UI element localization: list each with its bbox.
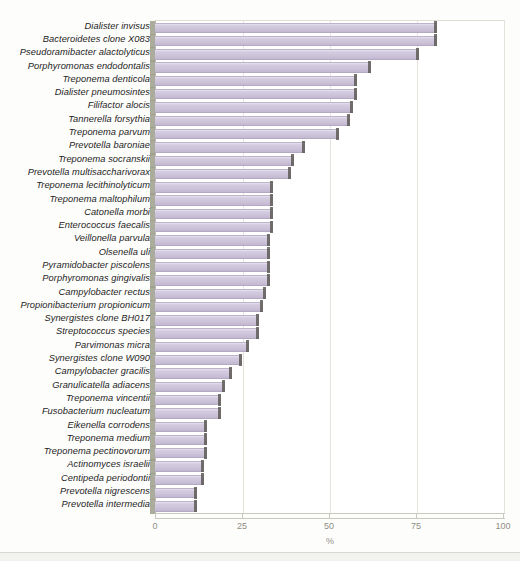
bar: [155, 156, 294, 166]
bar-end-cap: [270, 207, 273, 219]
y-axis-label: Prevotella intermedia: [0, 499, 150, 510]
bar: [155, 222, 273, 232]
bar: [155, 249, 270, 259]
bar-end-cap: [434, 34, 437, 46]
bar: [155, 89, 357, 99]
x-axis-title: %: [155, 536, 505, 546]
y-axis-label: Catonella morbi: [0, 207, 150, 218]
y-axis-label: Treponema socranskii: [0, 154, 150, 165]
bar-end-cap: [336, 128, 339, 140]
bar: [155, 302, 263, 312]
bar: [155, 235, 270, 245]
bar: [155, 342, 249, 352]
bar: [155, 475, 204, 485]
y-axis-label: Enterococcus faecalis: [0, 220, 150, 231]
bar-end-cap: [368, 61, 371, 73]
figure-canvas: 0255075100Dialister invisusBacteroidetes…: [0, 0, 520, 561]
bar: [155, 23, 437, 33]
bar: [155, 328, 259, 338]
y-axis-label: Olsenella uli: [0, 247, 150, 258]
bar: [155, 368, 232, 378]
bar: [155, 182, 273, 192]
bar-end-cap: [204, 420, 207, 432]
bar: [155, 116, 350, 126]
y-axis-label: Pyramidobacter piscolens: [0, 260, 150, 271]
y-axis-label: Streptococcus species: [0, 326, 150, 337]
bar-end-cap: [291, 154, 294, 166]
y-axis-label: Treponema vincentii: [0, 393, 150, 404]
bar: [155, 501, 197, 511]
bar-end-cap: [288, 167, 291, 179]
y-axis-label: Synergistes clone BH017: [0, 313, 150, 324]
x-tick-label-100: 100: [483, 521, 520, 531]
bar-end-cap: [416, 48, 419, 60]
bar-end-cap: [267, 234, 270, 246]
y-axis-label: Dialister pneumosintes: [0, 87, 150, 98]
bar: [155, 488, 197, 498]
bar-end-cap: [218, 394, 221, 406]
y-axis-label: Propionibacterium propionicum: [0, 300, 150, 311]
bar-end-cap: [194, 500, 197, 512]
bar: [155, 142, 305, 152]
y-axis-label: Filifactor alocis: [0, 100, 150, 111]
bar-end-cap: [350, 101, 353, 113]
y-axis-label: Actinomyces israelii: [0, 459, 150, 470]
bar-end-cap: [354, 74, 357, 86]
gridline-100: [504, 21, 505, 513]
bar: [155, 129, 339, 139]
bar-end-cap: [201, 460, 204, 472]
y-axis-label: Veillonella parvula: [0, 233, 150, 244]
y-axis-label: Tannerella forsythia: [0, 114, 150, 125]
bar: [155, 49, 419, 59]
x-tick-label-25: 25: [222, 521, 262, 531]
y-axis-label: Granulicatella adiacens: [0, 380, 150, 391]
bar: [155, 448, 207, 458]
bar: [155, 461, 204, 471]
bar-end-cap: [201, 473, 204, 485]
y-axis-label: Treponema denticola: [0, 74, 150, 85]
bar: [155, 435, 207, 445]
bar: [155, 315, 259, 325]
y-axis-label: Prevotella baroniae: [0, 140, 150, 151]
bar-end-cap: [302, 141, 305, 153]
y-axis-label: Porphyromonas endodontalis: [0, 61, 150, 72]
page-margin: [0, 553, 520, 561]
bar: [155, 209, 273, 219]
bar-end-cap: [267, 274, 270, 286]
bar-end-cap: [347, 114, 350, 126]
y-axis-label: Synergistes clone W090: [0, 353, 150, 364]
bar: [155, 102, 353, 112]
bar-end-cap: [229, 367, 232, 379]
y-axis-label: Pseudoramibacter alactolyticus: [0, 47, 150, 58]
bar-end-cap: [434, 21, 437, 33]
y-axis-label: Prevotella multisaccharivorax: [0, 167, 150, 178]
bar-end-cap: [267, 261, 270, 273]
x-axis-line: [155, 518, 505, 519]
y-axis-label: Fusobacterium nucleatum: [0, 406, 150, 417]
bar-end-cap: [270, 181, 273, 193]
bar: [155, 275, 270, 285]
bar-end-cap: [354, 88, 357, 100]
x-tick-label-75: 75: [396, 521, 436, 531]
y-axis-label: Campylobacter gracilis: [0, 366, 150, 377]
y-axis-label: Treponema pectinovorum: [0, 446, 150, 457]
x-tick-label-0: 0: [135, 521, 175, 531]
y-axis-label: Prevotella nigrescens: [0, 486, 150, 497]
bar: [155, 382, 225, 392]
bar-end-cap: [239, 354, 242, 366]
y-axis-label: Treponema parvum: [0, 127, 150, 138]
bar: [155, 422, 207, 432]
y-axis-label: Campylobacter rectus: [0, 287, 150, 298]
bar-end-cap: [246, 340, 249, 352]
y-axis-label: Centipeda periodontii: [0, 473, 150, 484]
y-axis-label: Parvimonas micra: [0, 340, 150, 351]
y-axis-label: Bacteroidetes clone X083: [0, 34, 150, 45]
bar-end-cap: [260, 300, 263, 312]
bar: [155, 395, 221, 405]
y-axis-label: Dialister invisus: [0, 21, 150, 32]
y-axis-label: Treponema maltophilum: [0, 194, 150, 205]
bar-end-cap: [267, 247, 270, 259]
bar: [155, 195, 273, 205]
bar-end-cap: [218, 407, 221, 419]
bar-end-cap: [270, 221, 273, 233]
